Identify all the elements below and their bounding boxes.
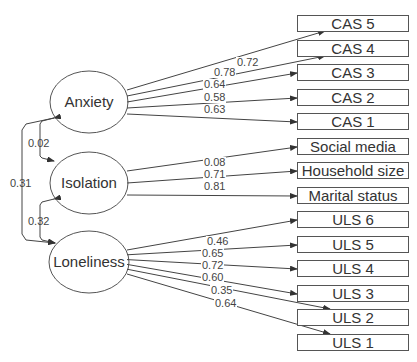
loading-arrow (127, 195, 297, 196)
latent-isolation-label: Isolation (49, 174, 129, 191)
indicator-uls6: ULS 6 (297, 211, 409, 228)
loading-uls4: 0.72 (201, 260, 224, 271)
loading-uls2: 0.35 (210, 285, 233, 296)
loading-uls1: 0.64 (214, 298, 237, 309)
loading-cas4: 0.78 (213, 67, 236, 78)
indicator-marital-status: Marital status (297, 187, 409, 204)
corr-isolation-loneliness-value: 0.32 (28, 216, 49, 227)
loading-cas1: 0.63 (203, 104, 226, 115)
loading-arrow (127, 114, 297, 122)
indicator-cas1: CAS 1 (297, 113, 409, 130)
loading-household-size: 0.71 (203, 169, 226, 180)
loading-social-media: 0.08 (203, 157, 226, 168)
corr-anxiety-loneliness-value: 0.31 (10, 178, 31, 189)
loading-cas5: 0.72 (236, 57, 259, 68)
indicator-cas3: CAS 3 (297, 64, 409, 81)
latent-loneliness-label: Loneliness (49, 253, 129, 270)
corr-anxiety-isolation-value: 0.02 (28, 138, 49, 149)
indicator-uls5: ULS 5 (297, 236, 409, 253)
indicator-uls3: ULS 3 (297, 285, 409, 302)
indicator-household-size: Household size (297, 162, 409, 179)
indicator-cas2: CAS 2 (297, 89, 409, 106)
indicator-cas4: CAS 4 (297, 40, 409, 57)
indicator-cas5: CAS 5 (297, 15, 409, 32)
loading-cas2: 0.58 (203, 92, 226, 103)
latent-anxiety-label: Anxiety (49, 93, 129, 110)
indicator-uls1: ULS 1 (297, 334, 409, 351)
loading-cas3: 0.64 (203, 79, 226, 90)
loading-uls5: 0.65 (201, 248, 224, 259)
loading-marital-status: 0.81 (203, 181, 226, 192)
loading-uls3: 0.60 (201, 272, 224, 283)
indicator-social-media: Social media (297, 138, 409, 155)
loading-uls6: 0.46 (206, 236, 229, 247)
indicator-uls4: ULS 4 (297, 260, 409, 277)
indicator-uls2: ULS 2 (297, 309, 409, 326)
